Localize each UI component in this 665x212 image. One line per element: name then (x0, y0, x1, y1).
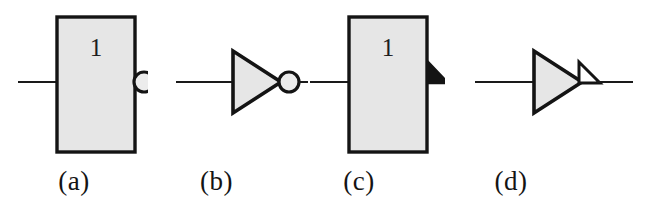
panel-label-a: (a) (0, 168, 148, 195)
gate-body-triangle (534, 51, 582, 113)
gate-symbol-c: 1 (285, 0, 445, 168)
gate-panel-d: (d) (433, 0, 665, 212)
gate-symbol-b (148, 0, 308, 168)
gate-symbol-a: 1 (0, 0, 148, 168)
negation-bubble-icon (134, 72, 148, 92)
logic-gate-symbol-figure: 1 (a) (b) 1 (0, 0, 665, 212)
gate-panel-a: 1 (a) (0, 0, 148, 212)
gate-body-triangle (233, 51, 281, 113)
gate-symbol-d (433, 0, 665, 168)
polarity-indicator-icon (579, 62, 600, 83)
qualifier-symbol: 1 (90, 34, 103, 61)
panel-label-d: (d) (395, 168, 627, 195)
gate-panel-b: (b) (148, 0, 285, 212)
panel-label-b: (b) (148, 168, 285, 195)
qualifier-symbol: 1 (382, 34, 395, 61)
